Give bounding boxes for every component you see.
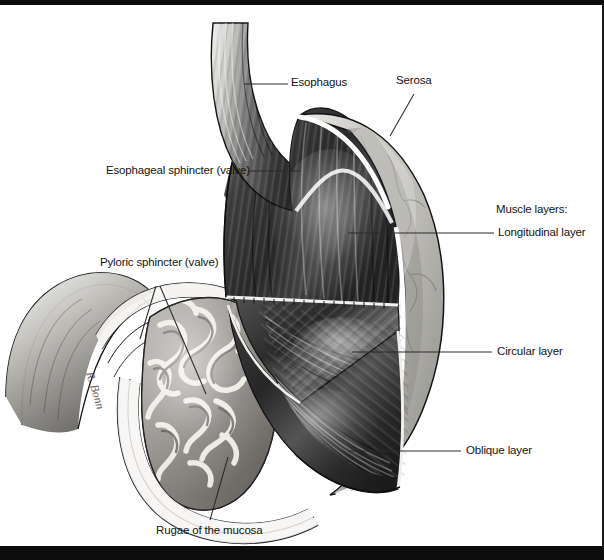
label-rugae: Rugae of the mucosa [156,524,262,537]
label-longitudinal-layer: Longitudinal layer [498,226,585,239]
label-esophageal-sphincter: Esophageal sphincter (valve) [62,164,250,177]
label-pyloric-sphincter: Pyloric sphincter (valve) [100,256,218,269]
label-circular-layer: Circular layer [497,345,563,358]
label-serosa: Serosa [396,74,432,87]
stomach-anatomy-figure: R. Bonn Esophagus Serosa Esophageal sphi… [0,0,604,560]
frame-bottom-band [0,546,604,560]
label-esophagus: Esophagus [291,76,347,89]
artist-signature: R. Bonn [83,369,108,411]
label-muscle-layers: Muscle layers: [496,203,567,216]
label-oblique-layer: Oblique layer [466,444,532,457]
leader-serosa [390,94,414,136]
